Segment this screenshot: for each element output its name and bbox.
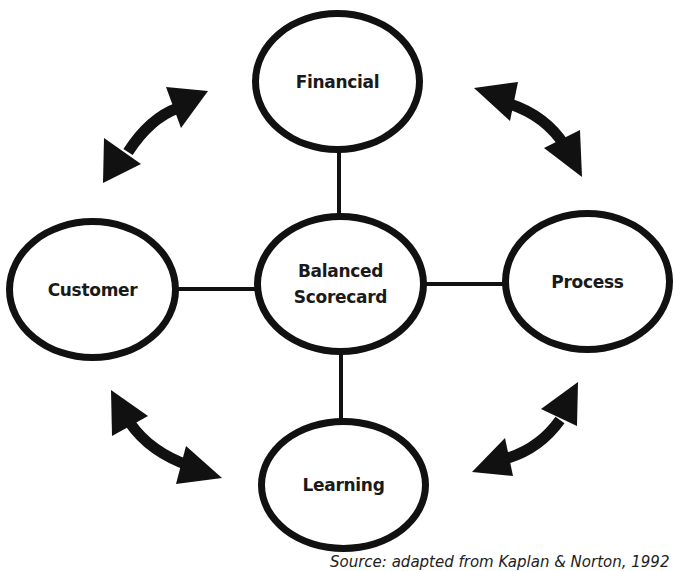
node-customer: Customer — [6, 218, 179, 361]
node-process: Process — [502, 210, 673, 353]
node-label-learning: Learning — [302, 472, 384, 498]
source-caption: Source: adapted from Kaplan & Norton, 19… — [330, 553, 669, 571]
node-label-balanced-scorecard: Balanced Scorecard — [294, 258, 387, 310]
node-label-process: Process — [551, 269, 623, 295]
node-learning: Learning — [258, 418, 429, 552]
double-arrow-icon-bottom-left — [111, 390, 222, 484]
node-financial: Financial — [252, 10, 423, 153]
double-arrow-icon-top-right — [474, 82, 582, 177]
node-balanced-scorecard: Balanced Scorecard — [254, 213, 427, 355]
node-label-financial: Financial — [296, 69, 380, 95]
double-arrow-icon-top-left — [103, 87, 208, 183]
node-label-customer: Customer — [48, 277, 138, 303]
double-arrow-icon-bottom-right — [472, 382, 578, 476]
